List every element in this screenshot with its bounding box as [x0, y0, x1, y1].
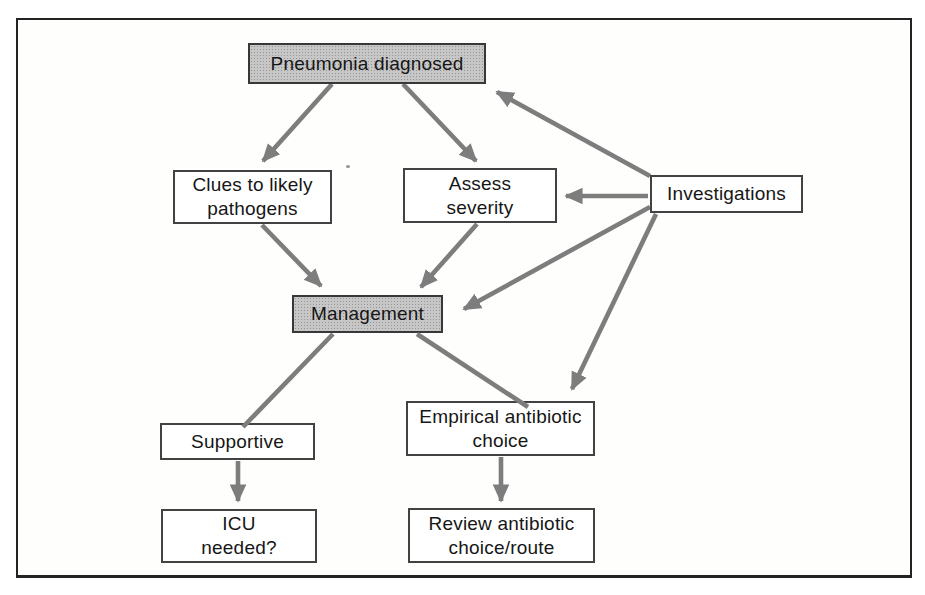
node-label: choice: [472, 429, 528, 453]
node-label: Investigations: [667, 182, 786, 206]
node-label: Pneumonia diagnosed: [271, 52, 464, 76]
node-pneumonia-diagnosed: Pneumonia diagnosed: [248, 43, 486, 84]
node-label: Supportive: [191, 430, 284, 454]
edge-pneumonia-to-assess: [403, 84, 476, 161]
node-label: Clues to likely: [192, 173, 312, 197]
screen: Pneumonia diagnosed Clues to likely path…: [0, 0, 925, 595]
node-label: severity: [446, 196, 513, 220]
node-supportive: Supportive: [160, 423, 315, 460]
node-label: Assess: [449, 172, 511, 196]
node-investigations: Investigations: [650, 175, 803, 213]
node-label: ICU: [222, 512, 255, 536]
node-label: Empirical antibiotic: [419, 405, 581, 429]
node-review-antibiotic-choice-route: Review antibiotic choice/route: [408, 508, 595, 563]
edge-investigations-to-pneumonia: [497, 92, 650, 176]
edge-pneumonia-to-clues: [263, 84, 332, 161]
node-label: Review antibiotic: [429, 512, 575, 536]
node-label: choice/route: [449, 536, 555, 560]
node-clues-to-likely-pathogens: Clues to likely pathogens: [173, 170, 332, 224]
node-label: pathogens: [207, 197, 298, 221]
node-empirical-antibiotic-choice: Empirical antibiotic choice: [406, 401, 595, 456]
node-management: Management: [292, 295, 443, 333]
node-label: needed?: [201, 536, 276, 560]
scan-speck: [346, 165, 350, 168]
node-icu-needed: ICU needed?: [161, 509, 317, 563]
node-label: Management: [311, 302, 424, 326]
edge-clues-to-management: [262, 225, 321, 286]
edges-layer: [0, 0, 925, 595]
edge-assess-to-management: [421, 224, 477, 287]
node-assess-severity: Assess severity: [403, 168, 557, 223]
